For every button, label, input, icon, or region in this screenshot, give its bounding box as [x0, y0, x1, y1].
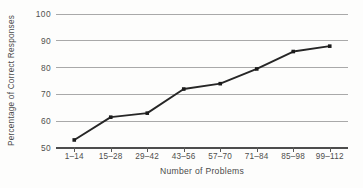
- y-axis-title-text: Percentage of Correct Responses: [8, 14, 17, 145]
- line-series: [56, 14, 348, 148]
- x-axis-title: Number of Problems: [56, 166, 348, 176]
- x-tick-label-3: 43–56: [172, 152, 196, 161]
- data-point-6: [291, 50, 295, 54]
- x-tick-label-1: 15–28: [99, 152, 123, 161]
- x-tick-label-5: 71–84: [245, 152, 269, 161]
- x-tick-label-2: 29–42: [135, 152, 159, 161]
- y-tick-label-70: 70: [41, 89, 51, 99]
- data-point-1: [109, 115, 113, 119]
- y-tick-label-80: 80: [41, 63, 51, 73]
- x-tick-label-6: 85–98: [281, 152, 305, 161]
- series-markers: [72, 44, 331, 141]
- x-tick-label-7: 99–112: [316, 152, 344, 161]
- y-tick-label-100: 100: [36, 9, 51, 19]
- plot-area: 5060708090100 1–1415–2829–4243–5657–7071…: [56, 14, 348, 148]
- chart-figure: Percentage of Correct Responses 50607080…: [0, 0, 363, 188]
- y-tick-label-90: 90: [41, 36, 51, 46]
- y-tick-label-60: 60: [41, 116, 51, 126]
- x-tick-label-0: 1–14: [65, 152, 84, 161]
- data-point-4: [218, 82, 222, 86]
- data-point-3: [182, 87, 186, 91]
- y-tick-label-50: 50: [41, 143, 51, 153]
- x-tick-label-4: 57–70: [208, 152, 232, 161]
- data-point-5: [255, 67, 259, 71]
- data-point-7: [328, 44, 332, 48]
- y-axis-title: Percentage of Correct Responses: [0, 0, 24, 160]
- data-point-0: [72, 138, 76, 142]
- series-line: [74, 46, 330, 140]
- data-point-2: [145, 111, 149, 115]
